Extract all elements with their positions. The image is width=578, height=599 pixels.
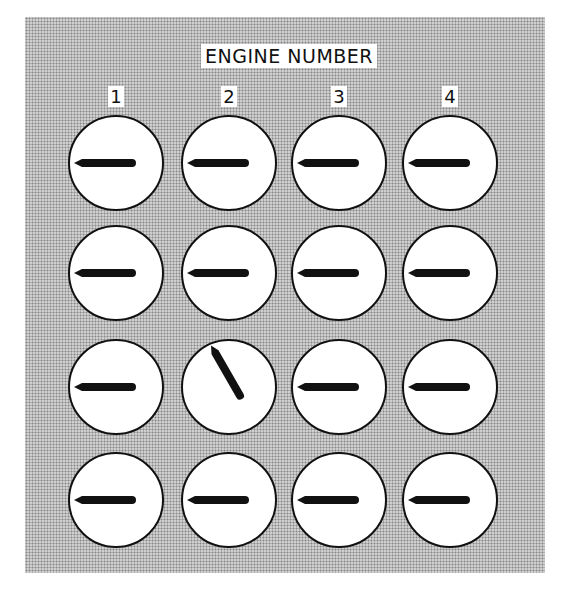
gauge-engine-1-row-3	[68, 339, 164, 435]
gauge-engine-4-row-4	[402, 452, 498, 548]
gauge-engine-4-row-1	[402, 115, 498, 211]
needle-icon	[291, 452, 387, 548]
needle-icon	[68, 452, 164, 548]
needle-icon	[68, 225, 164, 321]
gauge-engine-4-row-2	[402, 225, 498, 321]
needle-icon	[68, 339, 164, 435]
needle-icon	[291, 339, 387, 435]
needle-icon	[291, 225, 387, 321]
engine-column-label-4: 4	[438, 86, 462, 108]
needle-icon	[402, 225, 498, 321]
needle-icon	[181, 452, 277, 548]
engine-column-label-2: 2	[217, 86, 241, 108]
gauge-engine-3-row-3	[291, 339, 387, 435]
needle-icon	[68, 115, 164, 211]
panel-title: ENGINE NUMBER	[201, 44, 377, 68]
needle-icon	[291, 115, 387, 211]
gauge-engine-1-row-1	[68, 115, 164, 211]
needle-icon	[402, 115, 498, 211]
gauge-engine-3-row-4	[291, 452, 387, 548]
needle-icon	[402, 452, 498, 548]
gauge-engine-2-row-1	[181, 115, 277, 211]
gauge-engine-2-row-2	[181, 225, 277, 321]
needle-icon	[402, 339, 498, 435]
gauge-engine-4-row-3	[402, 339, 498, 435]
gauge-engine-3-row-2	[291, 225, 387, 321]
engine-column-label-3: 3	[327, 86, 351, 108]
gauge-engine-1-row-4	[68, 452, 164, 548]
gauge-engine-2-row-3	[181, 339, 277, 435]
engine-column-label-1: 1	[104, 86, 128, 108]
gauge-engine-2-row-4	[181, 452, 277, 548]
needle-icon	[181, 225, 277, 321]
needle-icon	[181, 339, 277, 435]
needle-icon	[181, 115, 277, 211]
gauge-engine-3-row-1	[291, 115, 387, 211]
gauge-engine-1-row-2	[68, 225, 164, 321]
